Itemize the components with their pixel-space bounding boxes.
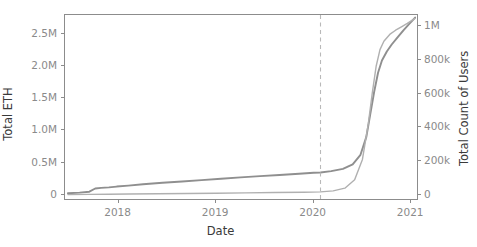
y-axis-left-tick-label: 0.5M: [14, 156, 57, 168]
y-axis-left-tickmark: [61, 162, 64, 163]
x-axis-tick-label: 2019: [202, 206, 229, 218]
y-axis-left-tickmark: [61, 194, 64, 195]
y-axis-right-tickmark: [418, 126, 421, 127]
y-axis-left-tickmark: [61, 97, 64, 98]
x-axis-tick-label: 2018: [104, 206, 131, 218]
y-axis-right-tick-label: 600k: [424, 87, 450, 99]
y-axis-right-tickmark: [418, 93, 421, 94]
y-axis-left-tick-label: 2.5M: [14, 27, 57, 39]
y-axis-left-tick-label: 1.5M: [14, 91, 57, 103]
y-axis-left-title: Total ETH: [1, 74, 15, 154]
x-axis-tickmark: [313, 200, 314, 203]
series-line-2: [68, 18, 415, 194]
y-axis-right-tickmark: [418, 59, 421, 60]
x-axis-title-text: Date: [207, 224, 235, 238]
y-axis-right-tick-label: 400k: [424, 120, 450, 132]
y-axis-right-title: Total Count of Users: [457, 62, 471, 166]
y-axis-right-tickmark: [418, 160, 421, 161]
y-axis-left-tickmark: [61, 129, 64, 130]
x-axis-tickmark: [118, 200, 119, 203]
x-axis-tickmark: [410, 200, 411, 203]
y-axis-left-tickmark: [61, 65, 64, 66]
y-axis-right-tickmark: [418, 194, 421, 195]
chart-figure: Total ETH Total Count of Users Date 00.5…: [0, 0, 477, 247]
plot-svg: [65, 15, 419, 201]
y-axis-right-tick-label: 800k: [424, 53, 450, 65]
x-axis-tick-label: 2021: [397, 206, 424, 218]
y-axis-left-tickmark: [61, 33, 64, 34]
y-axis-left-tick-label: 1.0M: [14, 123, 57, 135]
y-axis-right-tick-label: 1M: [424, 19, 440, 31]
y-axis-right-tick-label: 200k: [424, 154, 450, 166]
plot-area: [64, 14, 418, 200]
y-axis-right-tick-label: 0: [424, 188, 431, 200]
series-line-1: [68, 18, 415, 194]
x-axis-tickmark: [215, 200, 216, 203]
x-axis-tick-label: 2020: [299, 206, 326, 218]
y-axis-left-tick-label: 0: [14, 188, 57, 200]
y-axis-right-tickmark: [418, 25, 421, 26]
y-axis-left-tick-label: 2.0M: [14, 59, 57, 71]
series-group: [68, 18, 415, 195]
x-axis-title: Date: [0, 224, 477, 238]
